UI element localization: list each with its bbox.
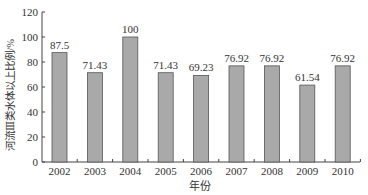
y-tick-label: 0: [33, 156, 39, 168]
x-tick-label: 2007: [226, 165, 249, 177]
bar-value-label: 69.23: [189, 61, 214, 73]
y-tick-label: 80: [27, 56, 39, 68]
bar-value-label: 100: [122, 23, 139, 35]
x-tick-label: 2004: [119, 165, 142, 177]
bar-chart: 020406080100120 200220032004200520062007…: [0, 0, 368, 195]
bar-2003: [87, 73, 102, 162]
x-tick-label: 2006: [190, 165, 213, 177]
bar-2006: [194, 75, 209, 162]
bar-value-label: 87.5: [50, 39, 70, 51]
x-tick-label: 2002: [49, 165, 71, 177]
bar-2008: [264, 66, 279, 162]
bar-2004: [123, 37, 138, 162]
bar-2010: [335, 66, 350, 162]
bar-value-label: 71.43: [83, 59, 108, 71]
bar-value-label: 61.54: [295, 71, 320, 83]
y-tick-label: 40: [27, 106, 39, 118]
bar-2009: [300, 85, 315, 162]
x-axis-label: 年份: [189, 179, 211, 192]
bar-value-label: 76.92: [330, 52, 355, 64]
bar-2002: [52, 53, 67, 162]
y-axis: 020406080100120: [22, 6, 46, 168]
y-tick-label: 60: [27, 81, 39, 93]
y-axis-label: 河流Ⅲ类水体以上比例/%: [4, 39, 16, 151]
x-tick-label: 2010: [332, 165, 355, 177]
bars: 87.571.4310071.4369.2376.9276.9261.5476.…: [50, 23, 355, 162]
bar-2005: [158, 73, 173, 162]
x-tick-label: 2008: [261, 165, 284, 177]
x-tick-label: 2009: [296, 165, 319, 177]
x-tick-label: 2003: [84, 165, 107, 177]
y-tick-label: 100: [22, 31, 39, 43]
bar-value-label: 71.43: [153, 59, 178, 71]
y-tick-label: 120: [22, 6, 39, 18]
bar-value-label: 76.92: [224, 52, 249, 64]
y-tick-label: 20: [27, 131, 39, 143]
x-tick-label: 2005: [155, 165, 178, 177]
bar-value-label: 76.92: [260, 52, 285, 64]
bar-2007: [229, 66, 244, 162]
